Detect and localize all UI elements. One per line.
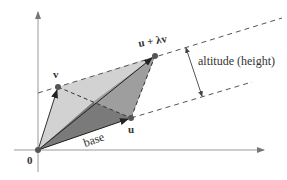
point-u <box>128 115 134 121</box>
point-v <box>55 84 61 90</box>
label-u-plus-lambda-v: u + λv <box>137 32 168 49</box>
label-v: v <box>53 68 59 80</box>
parallelogram-diagram: 0 v u u + λv base altitude (height) <box>0 0 287 180</box>
bottom-parallel-line <box>131 82 252 118</box>
point-origin <box>35 147 41 153</box>
label-altitude: altitude (height) <box>198 54 275 68</box>
label-origin: 0 <box>27 154 33 166</box>
point-u-plus-lambda-v <box>152 53 158 59</box>
label-u: u <box>128 123 134 135</box>
